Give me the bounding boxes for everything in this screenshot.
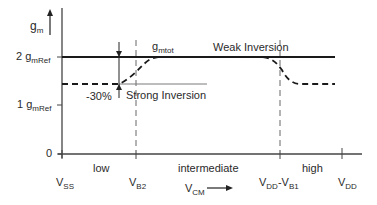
delta-percent-label: -30% — [86, 91, 112, 102]
gm-arrowhead-icon — [47, 9, 53, 16]
y-tick-label-0: 0 — [46, 148, 52, 159]
y-tick-label-1gmref: 1 gmRef — [17, 99, 51, 113]
x-tick-label-vss: VSS — [56, 177, 74, 191]
gmtot-label: gmtot — [152, 41, 174, 55]
x-tick-label-vdd: VDD — [338, 177, 357, 191]
x-axis-label-vcm: VCM — [185, 183, 205, 197]
x-tick-label-vdd-vb1: VDD-VB1 — [259, 177, 299, 191]
y-axis-label: gm — [30, 20, 43, 35]
region-high-label: high — [302, 163, 323, 174]
region-intermediate-label: intermediate — [178, 163, 239, 174]
region-low-label: low — [93, 163, 110, 174]
gm-vs-vcm-diagram — [0, 0, 377, 205]
strong-inversion-label: Strong Inversion — [126, 90, 206, 101]
weak-inversion-label: Weak Inversion — [213, 42, 289, 53]
y-tick-label-2gmref: 2 gmRef — [16, 51, 50, 65]
gmtot-curve — [62, 57, 335, 84]
vcm-arrowhead-icon — [226, 185, 233, 191]
x-tick-label-vb2: VB2 — [129, 177, 146, 191]
